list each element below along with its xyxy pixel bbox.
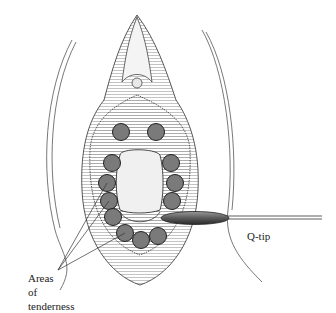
tender-point <box>148 124 165 141</box>
label-line: tenderness <box>28 299 98 313</box>
tender-point <box>167 175 184 192</box>
areas-of-tenderness-label: Areas of tenderness <box>28 271 98 313</box>
label-line: Areas <box>28 271 98 285</box>
tender-point <box>164 193 181 210</box>
anatomical-diagram <box>0 0 336 313</box>
tender-point <box>163 155 180 172</box>
qtip <box>161 212 322 225</box>
tender-point <box>105 209 122 226</box>
label-line: of <box>28 285 98 299</box>
qtip-label: Q-tip <box>247 229 270 243</box>
tender-point <box>104 155 121 172</box>
tender-point <box>133 232 150 249</box>
clitoris <box>132 78 142 88</box>
tender-point <box>113 124 130 141</box>
introitus <box>116 150 163 213</box>
tender-point <box>150 228 167 245</box>
